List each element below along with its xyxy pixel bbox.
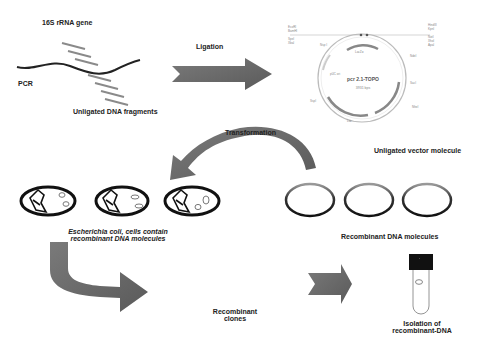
svg-text:NheI: NheI xyxy=(412,105,419,109)
ligation-arrow xyxy=(172,58,272,90)
clones-label-line1: Recombinant xyxy=(205,308,265,315)
ecoli-label: Escherichia coli, cells contain recombin… xyxy=(58,228,178,242)
recombinant-dna-rings xyxy=(286,184,451,216)
plasmid-map: EcoRI BamHI SpeI XbaI HindIII KpnI NotI … xyxy=(288,23,437,123)
svg-text:XbaI: XbaI xyxy=(288,41,294,45)
vector-label: Unligated vector molecule xyxy=(374,147,461,154)
clones-label: Recombinant clones xyxy=(205,308,265,322)
ecoli-cell-2 xyxy=(96,187,148,215)
isolation-label: Isolation of recombinant-DNA xyxy=(384,320,460,334)
svg-text:Nsp I: Nsp I xyxy=(320,43,327,47)
plasmid-name: pcr 2.1-TOPO xyxy=(347,76,379,82)
transformation-label: Transformation xyxy=(225,129,276,136)
pcr-label: PCR xyxy=(18,80,33,87)
ecoli-label-line2: recombinant DNA molecules xyxy=(58,235,178,242)
recombinant-dna-label: Recombinant DNA molecules xyxy=(341,233,438,240)
ecoli-label-line1: Escherichia coli, cells contain xyxy=(58,228,178,235)
fragments-label: Unligated DNA fragments xyxy=(73,108,158,115)
dna-strand xyxy=(17,60,140,74)
svg-text:pUC ori: pUC ori xyxy=(330,72,341,76)
isolation-arrow xyxy=(308,264,352,304)
svg-text:Lac: Lac xyxy=(347,119,352,123)
svg-text:ApaI: ApaI xyxy=(428,43,434,47)
cloning-diagram: EcoRI BamHI SpeI XbaI HindIII KpnI NotI … xyxy=(0,0,478,354)
test-tube xyxy=(409,254,433,314)
ligation-label: Ligation xyxy=(196,43,223,50)
svg-text:SspI: SspI xyxy=(310,99,316,103)
plasmid-size: 3931 bps xyxy=(356,86,371,90)
svg-text:SacI: SacI xyxy=(410,81,416,85)
svg-text:NdeI: NdeI xyxy=(410,54,417,58)
ecoli-cell-3 xyxy=(165,187,219,215)
gene-label: 16S rRNA gene xyxy=(42,19,92,26)
clones-label-line2: clones xyxy=(205,315,265,322)
svg-text:LacZα: LacZα xyxy=(355,50,364,54)
svg-text:KpnI: KpnI xyxy=(428,27,434,31)
isolation-label-line2: recombinant-DNA xyxy=(384,327,460,334)
isolation-label-line1: Isolation of xyxy=(384,320,460,327)
svg-text:BamHI: BamHI xyxy=(288,29,297,33)
ecoli-cell-1 xyxy=(21,187,75,215)
clones-arrow xyxy=(50,242,148,312)
